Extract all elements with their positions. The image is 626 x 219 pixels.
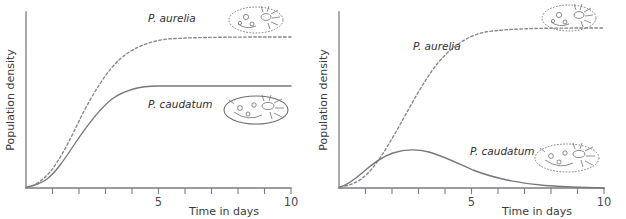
paramecium-competition-figure: 5 10 Time in days Population density P. … — [0, 0, 626, 219]
plot-area-right: 5 10 Time in days Population density P. … — [313, 0, 626, 219]
plot-area-left: 5 10 Time in days Population density P. … — [0, 0, 313, 219]
chart-panel-grown-together: 5 10 Time in days Population density P. … — [313, 0, 626, 219]
paramecium-caudatum-sketch-left — [224, 95, 288, 124]
x-axis-title-left: Time in days — [188, 205, 259, 218]
x-tick-label-5-right: 5 — [468, 195, 475, 209]
x-axis-ticks-right — [366, 188, 605, 194]
series-label-p-caudatum-right: P. caudatum — [470, 145, 535, 157]
chart-panel-grown-separately: 5 10 Time in days Population density P. … — [0, 0, 313, 219]
y-axis-title-right: Population density — [317, 49, 330, 151]
x-axis-title-right: Time in days — [501, 205, 572, 218]
series-label-p-aurelia-right: P. aurelia — [413, 40, 461, 52]
x-tick-label-10-right: 10 — [597, 195, 612, 209]
paramecium-caudatum-sketch-right — [535, 143, 599, 172]
curve-p-aurelia-left — [27, 37, 291, 187]
x-axis-ticks-left — [53, 188, 292, 194]
y-axis-title-left: Population density — [4, 49, 17, 151]
paramecium-aurelia-sketch-left — [229, 6, 283, 33]
series-label-p-aurelia-left: P. aurelia — [148, 12, 196, 24]
x-tick-label-10-left: 10 — [284, 195, 299, 209]
series-label-p-caudatum-left: P. caudatum — [148, 98, 213, 110]
x-tick-label-5-left: 5 — [155, 195, 162, 209]
paramecium-aurelia-sketch-right — [542, 4, 596, 31]
curve-p-aurelia-right — [340, 28, 604, 187]
